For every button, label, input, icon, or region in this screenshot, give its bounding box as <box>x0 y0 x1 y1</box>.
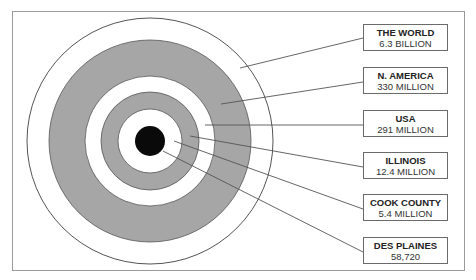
label-name: COOK COUNTY <box>364 197 447 208</box>
label-box-des-plaines: DES PLAINES 58,720 <box>363 237 448 264</box>
leader-line-world <box>240 38 363 68</box>
label-box-usa: USA 291 MILLION <box>363 110 448 137</box>
label-value: 5.4 MILLION <box>364 208 447 219</box>
label-value: 58,720 <box>364 251 447 262</box>
center-des-plaines <box>135 126 165 156</box>
label-value: 6.3 BILLION <box>364 38 447 49</box>
label-value: 12.4 MILLION <box>364 166 447 177</box>
label-name: N. AMERICA <box>364 70 447 81</box>
label-value: 291 MILLION <box>364 124 447 135</box>
label-name: THE WORLD <box>364 27 447 38</box>
label-box-world: THE WORLD 6.3 BILLION <box>363 24 448 51</box>
label-box-north-america: N. AMERICA 330 MILLION <box>363 67 448 94</box>
label-name: DES PLAINES <box>364 240 447 251</box>
label-value: 330 MILLION <box>364 81 447 92</box>
label-name: USA <box>364 113 447 124</box>
label-name: ILLINOIS <box>364 155 447 166</box>
label-box-cook-county: COOK COUNTY 5.4 MILLION <box>363 194 448 221</box>
label-box-illinois: ILLINOIS 12.4 MILLION <box>363 152 448 179</box>
